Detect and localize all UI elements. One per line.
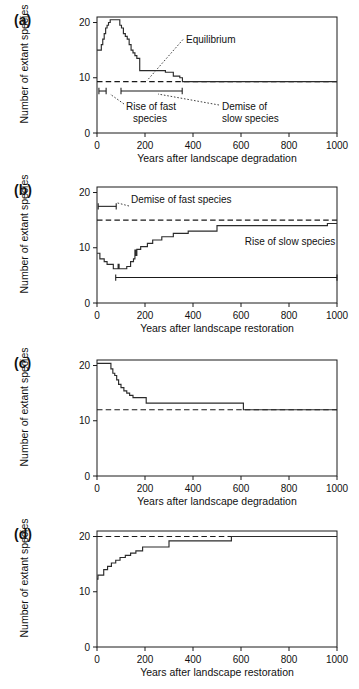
panel-c-plot-frame [97, 360, 337, 476]
panel-c-xtick-label-1000: 1000 [326, 483, 349, 494]
panel-a-ytick-label-10: 10 [79, 72, 91, 83]
panel-b-xtick-label-800: 800 [281, 310, 298, 321]
panel-c-xtick-label-200: 200 [137, 483, 154, 494]
panel-d-xtick-label-400: 400 [185, 654, 202, 665]
panel-d: (d) Number of extant species 01020020040… [0, 514, 359, 686]
panel-a-step-curve [97, 20, 337, 82]
panel-a-xtick-label-400: 400 [185, 140, 202, 151]
panel-a-rise-fast-leader [110, 94, 124, 104]
panel-a-plot: 0102002004006008001000EquilibriumRise of… [0, 0, 359, 172]
panel-a-annotation-bar-demise-of-slow-species [121, 88, 182, 94]
panel-a-xtick-label-600: 600 [233, 140, 250, 151]
panel-d-xtick-label-1000: 1000 [326, 654, 349, 665]
panel-a-xtick-label-200: 200 [137, 140, 154, 151]
panel-c-xlabel: Years after landscape degradation [97, 495, 337, 507]
panel-b-xlabel: Years after landscape restoration [97, 322, 337, 334]
panel-a: (a) Number of extant species 01020020040… [0, 0, 359, 172]
panel-c-plot: 0102002004006008001000 [0, 343, 359, 515]
panel-b-demise-fast-label: Demise of fast species [131, 194, 232, 205]
panel-b-annotation-bar-demise-of-fast-species [98, 203, 116, 209]
panel-b-ytick-label-10: 10 [79, 242, 91, 253]
panel-c-xtick-label-800: 800 [281, 483, 298, 494]
panel-a-ytick-label-0: 0 [84, 128, 90, 139]
panel-a-xtick-label-800: 800 [281, 140, 298, 151]
panel-b-ytick-label-0: 0 [84, 298, 90, 309]
panel-a-demise-slow-label-1: Demise of [222, 101, 267, 112]
panel-b-xtick-label-400: 400 [185, 310, 202, 321]
panel-b-plot: 0102002004006008001000Demise of fast spe… [0, 170, 359, 342]
panel-c-xtick-label-400: 400 [185, 483, 202, 494]
panel-a-demise-slow-label-2: slow species [222, 113, 279, 124]
panel-b-xtick-label-0: 0 [94, 310, 100, 321]
panel-c-ytick-label-10: 10 [79, 415, 91, 426]
figure-root: (a) Number of extant species 01020020040… [0, 0, 359, 689]
panel-b: (b) Number of extant species 01020020040… [0, 170, 359, 342]
panel-d-xtick-label-0: 0 [94, 654, 100, 665]
panel-d-xtick-label-800: 800 [281, 654, 298, 665]
panel-a-annotation-bar-rise-of-fast-species [99, 88, 106, 94]
panel-d-xlabel: Years after landscape restoration [97, 666, 337, 678]
panel-b-xtick-label-1000: 1000 [326, 310, 349, 321]
panel-a-xlabel: Years after landscape degradation [97, 152, 337, 164]
panel-d-plot: 0102002004006008001000 [0, 514, 359, 686]
panel-a-rise-fast-label-1: Rise of fast [126, 101, 176, 112]
panel-c-step-curve [97, 363, 337, 409]
panel-b-rise-slow-label: Rise of slow species [245, 236, 336, 247]
panel-c: (c) Number of extant species 01020020040… [0, 343, 359, 515]
panel-a-xtick-label-0: 0 [94, 140, 100, 151]
panel-c-xtick-label-0: 0 [94, 483, 100, 494]
panel-a-xtick-label-1000: 1000 [326, 140, 349, 151]
panel-c-xtick-label-600: 600 [233, 483, 250, 494]
panel-b-ytick-label-20: 20 [79, 187, 91, 198]
panel-a-equilibrium-label: Equilibrium [186, 34, 235, 45]
panel-b-annotation-bar-rise-of-slow-species [116, 274, 337, 280]
panel-c-ytick-label-20: 20 [79, 360, 91, 371]
panel-a-rise-fast-label-2: species [133, 113, 167, 124]
panel-d-ytick-label-0: 0 [84, 642, 90, 653]
panel-b-xtick-label-200: 200 [137, 310, 154, 321]
panel-a-ytick-label-20: 20 [79, 17, 91, 28]
panel-a-equilibrium-leader [147, 40, 183, 81]
panel-d-xtick-label-600: 600 [233, 654, 250, 665]
panel-d-xtick-label-200: 200 [137, 654, 154, 665]
panel-d-step-curve [97, 537, 337, 580]
panel-b-demise-fast-leader [117, 203, 129, 206]
panel-d-plot-frame [97, 531, 337, 647]
panel-b-xtick-label-600: 600 [233, 310, 250, 321]
panel-d-ytick-label-20: 20 [79, 531, 91, 542]
panel-c-ytick-label-0: 0 [84, 471, 90, 482]
panel-d-ytick-label-10: 10 [79, 586, 91, 597]
